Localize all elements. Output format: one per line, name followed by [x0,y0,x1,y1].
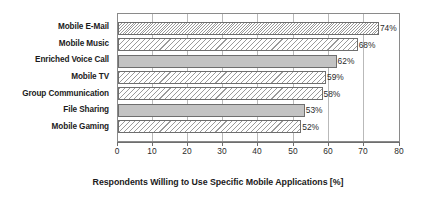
bar-value-label: 58% [324,90,341,98]
bar-mobile-tv: 59% [118,71,326,84]
x-tick-label: 70 [358,147,367,155]
bar-row: 59% [118,69,400,85]
bar-mobile-e-mail: 74% [118,22,379,35]
x-tick-label: 30 [217,147,226,155]
x-axis-title: Respondents Willing to Use Specific Mobi… [0,177,436,187]
bar-value-label: 68% [359,40,376,48]
category-label: Mobile TV [0,69,113,86]
x-tick-label: 50 [288,147,297,155]
category-label: File Sharing [0,102,113,119]
bar-row: 53% [118,102,400,118]
bar-value-label: 62% [338,57,355,65]
bar-row: 52% [118,119,400,135]
x-axis-line [117,142,400,143]
bar-value-label: 52% [302,123,319,131]
bar-mobile-gaming: 52% [118,120,301,133]
x-tick-label: 0 [115,147,120,155]
category-label: Mobile E-Mail [0,19,113,36]
bar-row: 74% [118,20,400,36]
bar-file-sharing: 53% [118,104,305,117]
x-tick-label: 20 [182,147,191,155]
bar-group-communication: 58% [118,87,323,100]
bar-row: 58% [118,86,400,102]
bar-mobile-music: 68% [118,38,358,51]
category-label: Group Communication [0,85,113,102]
bar-enriched-voice-call: 62% [118,55,337,68]
category-label: Mobile Gaming [0,118,113,135]
bar-row: 68% [118,36,400,52]
category-axis-labels: Mobile E-Mail Mobile Music Enriched Voic… [0,19,113,135]
x-tick-label: 10 [147,147,156,155]
bar-value-label: 53% [306,106,323,114]
x-tick-label: 80 [394,147,403,155]
bar-row: 62% [118,53,400,69]
bars-container: 74% 68% 62% 59% 58% 53% [118,20,400,135]
bar-value-label: 74% [380,24,397,32]
x-tick-label: 60 [323,147,332,155]
bar-value-label: 59% [327,73,344,81]
x-tick-label: 40 [252,147,261,155]
category-label: Enriched Voice Call [0,52,113,69]
bar-chart: Mobile E-Mail Mobile Music Enriched Voic… [0,0,436,207]
category-label: Mobile Music [0,36,113,53]
